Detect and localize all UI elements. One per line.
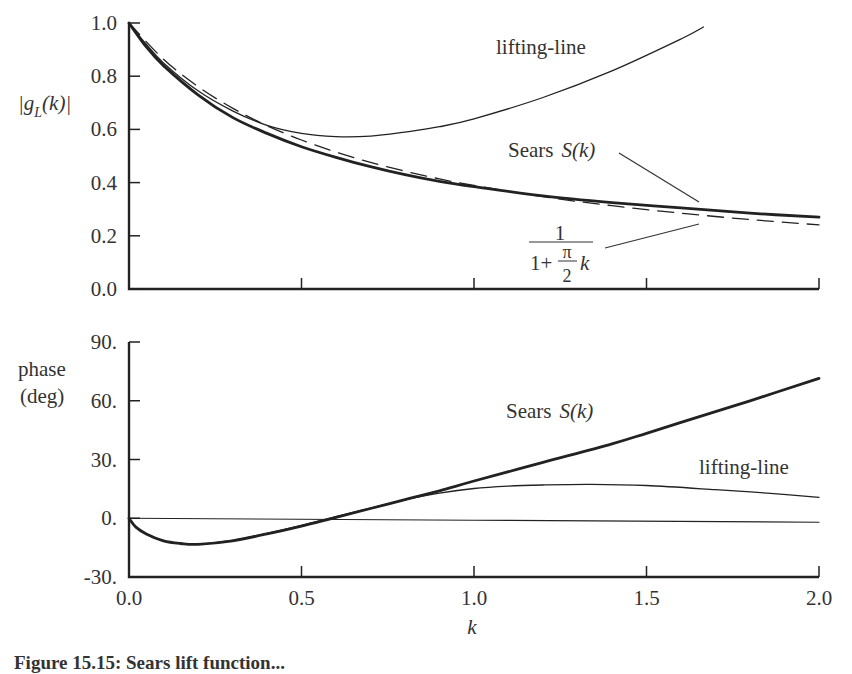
bottom-y-axis-label-line2: (deg) [20,384,64,408]
bottom-sears-label: SearsS(k) [506,399,593,423]
bottom-lifting-line-label: lifting-line [699,455,789,479]
y-tick-label: 0.6 [91,117,117,141]
top-approximation-leader-line [605,224,699,248]
bottom-series-zero-reference [129,518,819,522]
top-axis-frame [129,23,819,289]
y-tick-label: 90. [91,330,117,354]
y-tick-label: 60. [91,389,117,413]
top-panel: 0.00.20.40.60.81.0 |gL(k)| lifting-line … [18,11,819,301]
y-tick-label: -30. [84,565,117,589]
top-sears-label: SearsS(k) [508,138,595,162]
fraction-denominator-prefix: 1+ [530,251,552,275]
x-tick-label: 0.0 [116,586,142,610]
y-tick-label: 0.4 [91,171,118,195]
y-tick-label: 30. [91,448,117,472]
top-sears-leader-line [619,153,699,202]
figure-caption: Figure 15.15: Sears lift function... [14,652,285,674]
y-tick-label: 0.2 [91,224,117,248]
fraction-pi: π [562,242,571,262]
top-axes: 0.00.20.40.60.81.0 [91,11,819,301]
top-series-sears-s-k [129,23,819,217]
top-lifting-line-label: lifting-line [496,35,586,59]
y-tick-label: 1.0 [91,11,117,35]
x-tick-label: 0.5 [288,586,314,610]
top-series-lifting-line [129,23,703,137]
top-series [129,23,819,225]
top-approximation-label: 1 1+ π 2 k [529,221,593,286]
y-tick-label: 0.8 [91,64,117,88]
top-series-1-1-2-k [129,23,819,225]
bottom-panel: -30.0.30.60.90.0.00.51.01.52.0 phase (de… [18,330,832,639]
fraction-two: 2 [563,266,572,286]
bottom-series-lifting-line [129,484,819,544]
x-tick-label: 1.0 [461,586,487,610]
bottom-y-axis-label-line1: phase [18,357,66,381]
fraction-k: k [580,251,590,275]
x-axis-label: k [467,615,477,639]
x-tick-label: 2.0 [806,586,832,610]
x-tick-label: 1.5 [633,586,659,610]
y-tick-label: 0. [101,506,117,530]
y-tick-label: 0.0 [91,277,117,301]
top-y-axis-label: |gL(k)| [18,91,71,120]
